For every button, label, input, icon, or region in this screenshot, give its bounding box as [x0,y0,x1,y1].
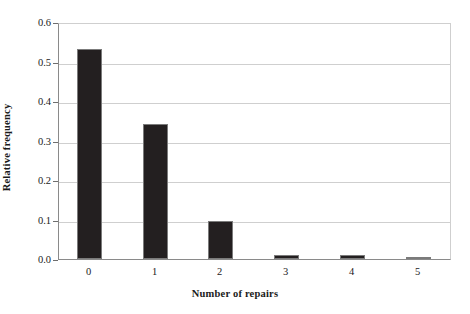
gridline-0.4 [59,103,450,104]
bar-2 [208,221,233,259]
bar-5 [406,257,431,259]
ytick-label-1: 0.1 [25,216,51,226]
ytick-label-6: 0.6 [25,18,51,28]
ytick-label-2: 0.2 [25,176,51,186]
ytick-mark-0.2 [53,181,58,182]
ytick-mark-0.3 [53,142,58,143]
gridline-0.2 [59,182,450,183]
ytick-label-3: 0.3 [25,137,51,147]
x-axis-title: Number of repairs [0,288,470,299]
xtick-label-4: 4 [332,266,372,277]
bar-0 [77,49,102,259]
bar-1 [143,124,168,259]
xtick-label-3: 3 [266,266,306,277]
ytick-mark-0.6 [53,23,58,24]
ytick-mark-0.0 [53,260,58,261]
bar-4 [340,255,365,259]
ytick-mark-0.1 [53,221,58,222]
y-axis-title: Relative frequency [1,68,12,228]
xtick-label-0: 0 [69,266,109,277]
ytick-label-0: 0.0 [25,255,51,265]
xtick-label-2: 2 [200,266,240,277]
xtick-label-1: 1 [135,266,175,277]
gridline-0.3 [59,143,450,144]
xtick-label-5: 5 [398,266,438,277]
ytick-label-4: 0.4 [25,97,51,107]
bar-3 [274,255,299,259]
gridline-0.1 [59,222,450,223]
gridline-0.5 [59,64,450,65]
plot-area [58,23,451,260]
ytick-mark-0.5 [53,63,58,64]
ytick-mark-0.4 [53,102,58,103]
ytick-label-5: 0.5 [25,58,51,68]
bar-chart: 0.6 0.5 0.4 0.3 0.2 0.1 0.0 0 1 2 3 4 5 … [0,0,470,314]
